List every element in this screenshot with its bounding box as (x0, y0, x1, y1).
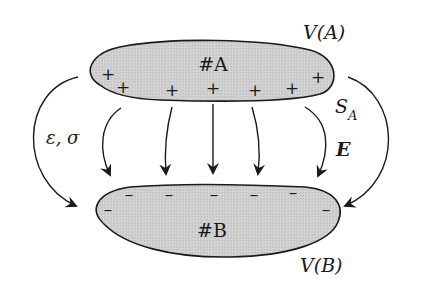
surface-label-main: S (335, 95, 348, 117)
negative-charge: – (165, 184, 174, 204)
positive-charge: + (206, 78, 220, 98)
field-lines (103, 104, 326, 176)
volume-a-label: V(A) (303, 21, 345, 43)
positive-charge: + (311, 67, 325, 87)
negative-charge: – (125, 184, 134, 204)
volume-b-label: V(B) (300, 254, 343, 276)
field-line-2 (165, 107, 172, 174)
field-line-1 (103, 108, 121, 175)
surface-a-label: S A (335, 95, 357, 123)
medium-label: ε, σ (46, 127, 80, 148)
conductor-b-label: #B (197, 219, 227, 241)
positive-charge: + (248, 80, 262, 100)
positive-charge: + (165, 80, 179, 100)
field-line-5 (305, 107, 326, 176)
positive-charge: + (101, 64, 115, 84)
surface-label-sub: A (347, 108, 357, 123)
negative-charge: – (322, 199, 331, 219)
diagram-canvas: +++++++ ––––––– #A #B V(A) V(B) S A E ε,… (0, 0, 422, 283)
positive-charge: + (285, 78, 299, 98)
positive-charge: + (116, 77, 130, 97)
conductor-a-label: #A (198, 53, 228, 75)
field-label: E (335, 138, 351, 160)
negative-charge: – (250, 184, 259, 204)
field-line-4 (252, 107, 259, 174)
negative-charge: – (289, 182, 298, 202)
negative-charge: – (104, 199, 113, 219)
negative-charge: – (210, 184, 219, 204)
outer-arrow-right (345, 77, 389, 206)
